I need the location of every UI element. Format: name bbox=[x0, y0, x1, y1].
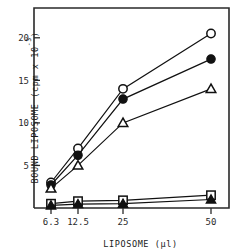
chart-figure: 51015206.312.52550 BOUND LIPOSOME (cpm x… bbox=[0, 0, 237, 249]
x-tick-label-25: 25 bbox=[118, 217, 129, 227]
marker-open-circle-50 bbox=[207, 29, 215, 37]
marker-filled-circle-12.5 bbox=[74, 151, 82, 159]
marker-open-circle-25 bbox=[119, 85, 127, 93]
y-axis-exponent: -3 bbox=[25, 37, 33, 46]
x-tick-label-6.3: 6.3 bbox=[43, 217, 59, 227]
marker-filled-circle-50 bbox=[207, 55, 215, 63]
series-line-open-circle bbox=[51, 34, 211, 183]
x-axis-title-text: LIPOSOME (µl) bbox=[103, 239, 177, 249]
series-line-open-triangle bbox=[51, 89, 211, 188]
x-tick-label-12.5: 12.5 bbox=[67, 217, 89, 227]
marker-filled-circle-25 bbox=[119, 95, 127, 103]
y-axis-title-paren: ) bbox=[30, 32, 40, 38]
y-axis-title-text: BOUND LIPOSOME (cpm x 10 bbox=[30, 46, 40, 183]
marker-open-triangle-50 bbox=[206, 84, 216, 92]
x-tick-label-50: 50 bbox=[206, 217, 217, 227]
marker-open-triangle-25 bbox=[118, 118, 128, 126]
x-axis-title: LIPOSOME (µl) bbox=[0, 232, 237, 249]
y-axis-title: BOUND LIPOSOME (cpm x 10-3) bbox=[23, 28, 42, 188]
